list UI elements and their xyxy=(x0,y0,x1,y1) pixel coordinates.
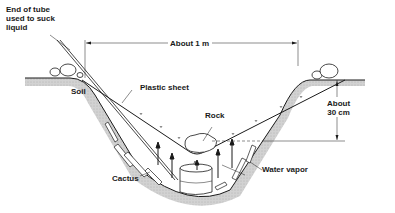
depth-label-line2: 30 cm xyxy=(327,108,350,117)
depth-label-line1: About xyxy=(327,99,350,108)
cactus-label: Cactus xyxy=(112,174,139,183)
soil-label: Soil xyxy=(71,87,86,96)
plastic-sheet-label: Plastic sheet xyxy=(140,83,189,92)
depth-label: About 30 cm xyxy=(327,99,350,117)
rock-label: Rock xyxy=(205,111,225,120)
rim-rock-left-tiny xyxy=(77,73,83,78)
tube-label-line2: used to suck xyxy=(6,14,55,23)
tube-label-line1: End of tube xyxy=(6,5,55,14)
rim-rock-left-large xyxy=(60,64,76,76)
suction-tube xyxy=(60,40,178,180)
suction-tube xyxy=(57,40,175,180)
tube-label-line3: liquid xyxy=(6,23,55,32)
rim-rock-right-large xyxy=(320,64,338,78)
center-rock xyxy=(185,133,217,152)
width-label: About 1 m xyxy=(170,39,209,48)
plastic-leader xyxy=(122,90,132,103)
tube-label: End of tube used to suck liquid xyxy=(6,5,55,32)
tube-leader xyxy=(50,35,70,50)
rim-rock-left-small xyxy=(50,68,60,76)
water-vapor-label: Water vapor xyxy=(262,165,308,174)
